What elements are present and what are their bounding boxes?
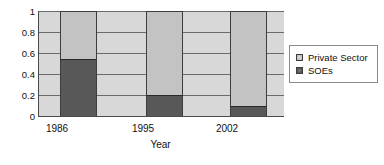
x-tick-label-1986: 1986	[27, 123, 87, 134]
legend: Private Sector SOEs	[289, 45, 378, 83]
y-tick-label: 0.6	[2, 49, 35, 59]
y-tick-label: 0.2	[2, 91, 35, 101]
bar-segment-soes-1986[interactable]	[60, 59, 97, 116]
y-tick-label: 0	[2, 112, 35, 122]
bar-segment-soes-2002[interactable]	[230, 106, 267, 117]
x-tick-label-2002: 2002	[197, 123, 257, 134]
table-row[interactable]	[60, 11, 97, 116]
table-row[interactable]	[146, 11, 183, 116]
x-tick-label-1995: 1995	[113, 123, 173, 134]
legend-item-soes[interactable]: SOEs	[296, 64, 373, 77]
bar-segment-private-sector-1986[interactable]	[60, 11, 97, 59]
stacked-bar-chart: 1 0.8 0.6 0.4 0.2 0 1986 1995 2002	[0, 0, 384, 165]
y-axis: 1 0.8 0.6 0.4 0.2 0	[2, 0, 35, 165]
legend-label-soes: SOEs	[308, 65, 333, 76]
table-row[interactable]	[230, 11, 267, 116]
bar-segment-private-sector-1995[interactable]	[146, 11, 183, 95]
bar-segment-private-sector-2002[interactable]	[230, 11, 267, 106]
legend-label-private-sector: Private Sector	[308, 52, 368, 63]
plot-area	[38, 11, 284, 117]
y-tick-label: 0.4	[2, 70, 35, 80]
x-axis-title: Year	[38, 139, 283, 150]
y-tick-label: 1	[2, 7, 35, 17]
legend-item-private-sector[interactable]: Private Sector	[296, 51, 373, 64]
y-tick-label: 0.8	[2, 28, 35, 38]
legend-swatch-soes-icon	[296, 67, 303, 74]
legend-swatch-private-sector-icon	[296, 54, 303, 61]
bar-segment-soes-1995[interactable]	[146, 95, 183, 116]
